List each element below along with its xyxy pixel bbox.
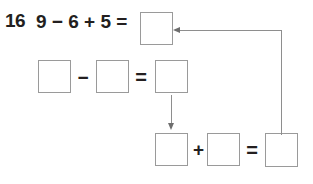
connector-line-vertical-up (281, 30, 282, 135)
answer-box-difference[interactable] (155, 60, 188, 93)
arrow-left-icon (173, 27, 180, 33)
answer-box-sum[interactable] (265, 133, 298, 167)
worksheet-problem-16: 16 9 − 6 + 5 = − = + = (0, 0, 313, 184)
operator-equals-row3: = (241, 140, 263, 160)
arrow-down-icon (168, 123, 174, 130)
answer-box-addend-2[interactable] (207, 133, 240, 166)
problem-number: 16 (5, 11, 25, 30)
equation-expression: 9 − 6 + 5 = (36, 12, 127, 31)
connector-line-horizontal (179, 30, 282, 31)
connector-line-vertical-down (171, 95, 172, 124)
answer-box-final-result[interactable] (140, 12, 173, 45)
operator-minus-row2: − (73, 68, 93, 87)
operator-equals-row2: = (130, 67, 152, 87)
answer-box-subtrahend[interactable] (96, 60, 129, 93)
answer-box-minuend[interactable] (38, 60, 71, 93)
answer-box-addend-1[interactable] (155, 133, 188, 166)
operator-plus-row3: + (189, 140, 208, 159)
